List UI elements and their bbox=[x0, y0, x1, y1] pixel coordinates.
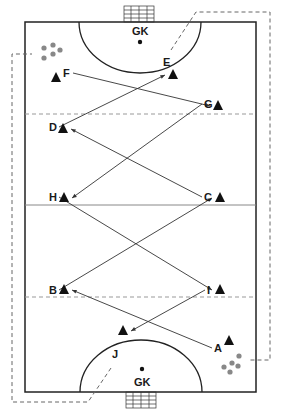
rotation-path-left bbox=[12, 54, 111, 402]
ball-pile-bottom bbox=[221, 353, 241, 374]
goal-bottom bbox=[126, 392, 156, 408]
cone-icon bbox=[58, 123, 68, 133]
pass-c-d bbox=[71, 129, 202, 197]
cone-icon bbox=[168, 69, 178, 79]
rotation-path-right bbox=[171, 12, 270, 360]
cone-icon bbox=[213, 100, 223, 110]
player-d: D bbox=[49, 121, 68, 133]
field-boundary bbox=[25, 22, 256, 392]
ball-pile-top bbox=[41, 42, 62, 60]
svg-text:D: D bbox=[49, 121, 57, 133]
pass-f-g bbox=[73, 73, 210, 106]
cone-icon bbox=[215, 192, 225, 202]
arrowhead-icon bbox=[72, 194, 77, 198]
ball-bottom bbox=[140, 367, 144, 371]
cone-icon bbox=[51, 72, 61, 82]
player-e: E bbox=[163, 56, 178, 79]
cone-icon bbox=[59, 192, 69, 202]
cone-icon bbox=[224, 335, 234, 345]
arrowhead-icon bbox=[72, 290, 77, 294]
svg-text:H: H bbox=[49, 191, 57, 203]
svg-text:A: A bbox=[214, 342, 222, 354]
player-i: I bbox=[207, 284, 225, 296]
svg-text:G: G bbox=[204, 98, 213, 110]
gk-bottom-label: GK bbox=[134, 376, 151, 388]
drill-diagram: GK GK FEGDHCBIAJ bbox=[0, 0, 281, 415]
svg-text:J: J bbox=[112, 348, 118, 360]
pass-i-j bbox=[131, 290, 205, 331]
svg-text:C: C bbox=[204, 191, 212, 203]
pass-a-b bbox=[72, 290, 212, 348]
cone-icon bbox=[215, 284, 225, 294]
svg-text:B: B bbox=[49, 284, 57, 296]
svg-text:E: E bbox=[163, 56, 170, 68]
pass-g-h bbox=[72, 104, 202, 198]
player-a: A bbox=[214, 335, 234, 354]
player-f: F bbox=[51, 67, 70, 82]
svg-text:F: F bbox=[63, 67, 70, 79]
player-c: C bbox=[204, 191, 225, 203]
player-g: G bbox=[204, 98, 223, 110]
svg-text:I: I bbox=[207, 284, 210, 296]
cone-icon bbox=[118, 325, 128, 335]
gk-top-label: GK bbox=[132, 25, 149, 37]
goal-top bbox=[124, 6, 154, 22]
ball-top bbox=[138, 40, 142, 44]
